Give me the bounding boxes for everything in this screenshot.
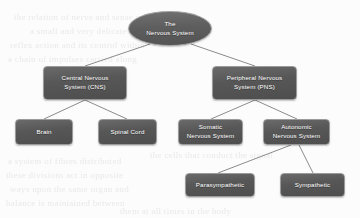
node-somatic-label-line1: Somatic — [187, 123, 235, 132]
node-root: The Nervous System — [128, 11, 212, 46]
node-pns-label-line2: System (PNS) — [227, 83, 283, 92]
node-root-label-line2: Nervous System — [146, 29, 194, 38]
node-pns-label-line1: Peripheral Nervous — [227, 74, 283, 83]
connector-autonomic-parasympathetic — [218, 145, 291, 173]
node-spinal-cord: Spinal Cord — [98, 119, 157, 145]
node-somatic-nervous-system: Somatic Nervous System — [178, 119, 243, 145]
node-central-nervous-system: Central Nervous System (CNS) — [43, 66, 127, 100]
node-peripheral-nervous-system: Peripheral Nervous System (PNS) — [212, 66, 297, 100]
node-autonomic-label-line2: Nervous System — [273, 132, 321, 141]
node-parasympathetic: Parasympathetic — [185, 173, 255, 197]
connector-autonomic-sympathetic — [299, 145, 313, 173]
connector-cns-spinal-cord — [85, 100, 127, 119]
node-parasympathetic-label: Parasympathetic — [196, 181, 244, 190]
node-sympathetic: Sympathetic — [280, 173, 345, 197]
node-autonomic-nervous-system: Autonomic Nervous System — [263, 119, 330, 145]
node-somatic-label-line2: Nervous System — [187, 132, 235, 141]
connector-cns-brain — [44, 100, 85, 119]
node-sympathetic-label: Sympathetic — [295, 181, 331, 190]
node-brain: Brain — [15, 119, 73, 145]
connector-pns-autonomic — [255, 100, 297, 119]
node-brain-label: Brain — [36, 128, 51, 137]
node-cns-label-line2: System (CNS) — [62, 83, 109, 92]
connector-root-cns — [85, 44, 150, 66]
node-cns-label-line1: Central Nervous — [62, 74, 109, 83]
connector-pns-somatic — [211, 100, 255, 119]
node-root-label-line1: The — [146, 20, 194, 29]
node-autonomic-label-line1: Autonomic — [273, 123, 321, 132]
connector-root-pns — [191, 44, 255, 66]
node-spinal-cord-label: Spinal Cord — [111, 128, 145, 137]
nervous-system-diagram: the relation of nerve and sense organa s… — [0, 0, 360, 218]
